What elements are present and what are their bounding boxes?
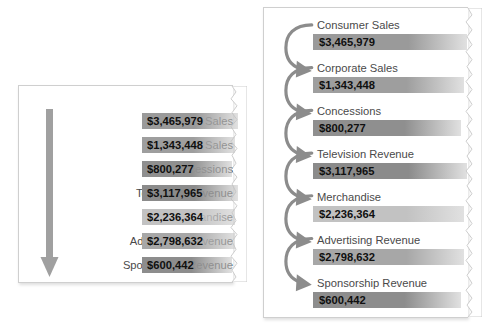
value-text: $3,465,979 <box>313 36 375 48</box>
list-item: Concessions$800,277 <box>264 104 468 138</box>
table-row: Television Revenue$3,117,965 <box>19 185 233 209</box>
table-row: Advertising Revenue$2,798,632 <box>19 233 233 257</box>
category-label: Television Revenue <box>317 147 414 162</box>
table-row: Merchandise$2,236,364 <box>19 209 233 233</box>
list-item: Merchandise$2,236,364 <box>264 190 468 224</box>
value-text: $3,117,965 <box>142 187 202 199</box>
value-text: $3,465,979 <box>142 115 203 127</box>
value-text: $2,798,632 <box>142 235 203 247</box>
value-bar: $1,343,448 <box>313 77 464 93</box>
value-bar: $800,277 <box>313 120 461 136</box>
value-text: $2,236,364 <box>313 208 375 220</box>
list-item: Television Revenue$3,117,965 <box>264 147 468 181</box>
category-label: Merchandise <box>317 190 381 205</box>
value-text: $3,117,965 <box>313 165 374 177</box>
value-bar: $3,465,979 <box>313 34 467 50</box>
value-text: $1,343,448 <box>142 139 203 151</box>
value-text: $800,277 <box>142 163 194 175</box>
table-row: Corporate Sales$1,343,448 <box>19 137 233 161</box>
value-text: $600,442 <box>142 259 194 271</box>
category-label: Sponsorship Revenue <box>317 276 427 291</box>
right-panel: Consumer Sales$3,465,979Corporate Sales$… <box>263 7 468 318</box>
value-bar: $2,236,364 <box>313 206 464 222</box>
value-text: $2,236,364 <box>142 211 203 223</box>
category-label: Advertising Revenue <box>317 233 420 248</box>
value-bar: $800,277 <box>142 161 232 177</box>
value-bar: $1,343,448 <box>142 137 235 153</box>
list-item: Sponsorship Revenue$600,442 <box>264 276 468 310</box>
value-bar: $600,442 <box>313 292 461 308</box>
value-bar: $3,117,965 <box>313 163 467 179</box>
value-bar: $2,798,632 <box>313 249 464 265</box>
value-text: $2,798,632 <box>313 251 375 263</box>
category-label: Corporate Sales <box>317 61 398 76</box>
value-text: $1,343,448 <box>313 79 375 91</box>
value-text: $800,277 <box>313 122 366 134</box>
list-item: Corporate Sales$1,343,448 <box>264 61 468 95</box>
value-bar: $3,117,965 <box>142 185 238 201</box>
table-row: Consumer Sales$3,465,979 <box>19 113 233 137</box>
value-bar: $2,236,364 <box>142 209 235 225</box>
value-text: $600,442 <box>313 294 366 306</box>
value-bar: $600,442 <box>142 257 232 273</box>
list-item: Consumer Sales$3,465,979 <box>264 18 468 52</box>
table-row: Sponsorship Revenue$600,442 <box>19 257 233 281</box>
category-label: Consumer Sales <box>317 18 400 33</box>
table-row: Concessions$800,277 <box>19 161 233 185</box>
list-item: Advertising Revenue$2,798,632 <box>264 233 468 267</box>
value-bar: $3,465,979 <box>142 113 238 129</box>
category-label: Concessions <box>317 104 381 119</box>
left-panel: Consumer Sales$3,465,979Corporate Sales$… <box>18 85 233 283</box>
value-bar: $2,798,632 <box>142 233 235 249</box>
